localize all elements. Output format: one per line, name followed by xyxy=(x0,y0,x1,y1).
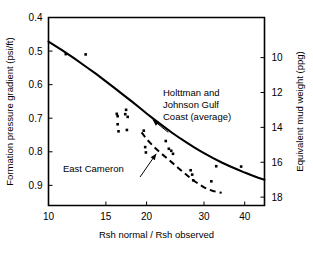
x-tick-label-40: 40 xyxy=(239,211,251,222)
data-point xyxy=(142,129,145,132)
data-point xyxy=(65,53,68,56)
data-point xyxy=(115,113,118,116)
x-tick-label-15: 15 xyxy=(100,211,112,222)
data-point xyxy=(145,151,148,154)
holttman-annotation-line: Johnson Gulf xyxy=(163,99,219,110)
data-point xyxy=(168,147,171,150)
data-point xyxy=(170,149,173,152)
x-tick-label-10: 10 xyxy=(43,211,55,222)
x-tick-label-20: 20 xyxy=(141,211,153,222)
y-tick-label-0.6: 0.6 xyxy=(29,79,43,90)
data-point xyxy=(164,140,167,143)
data-point xyxy=(84,53,87,56)
data-point xyxy=(116,115,119,118)
y2-tick-label-18: 18 xyxy=(272,192,284,203)
y2-tick-label-12: 12 xyxy=(272,87,284,98)
data-point xyxy=(192,179,195,182)
y-tick-label-0.9: 0.9 xyxy=(29,180,43,191)
data-point xyxy=(126,116,129,119)
data-point xyxy=(172,153,175,156)
curve-holttman-johnson xyxy=(49,42,265,180)
holttman-annotation-line: Holttman and xyxy=(163,87,220,98)
y2-axis-title: Equivalent mud weight (ppg) xyxy=(294,51,305,171)
data-point xyxy=(210,180,213,183)
east-cameron-annotation-arrowhead xyxy=(151,154,157,160)
curve-east-cameron xyxy=(142,132,222,192)
y2-tick-label-10: 10 xyxy=(272,52,284,63)
east-cameron-annotation-line: East Cameron xyxy=(63,163,124,174)
annotation-layer: Holttman andJohnson GulfCoast (average)E… xyxy=(63,87,231,177)
x-axis-ticks: 1015203040 xyxy=(43,202,251,222)
chart-figure: 1015203040 0.40.50.60.70.80.9 1012141618… xyxy=(0,0,313,254)
x-tick-label-30: 30 xyxy=(198,211,210,222)
data-point xyxy=(144,146,147,149)
holttman-annotation-line: Coast (average) xyxy=(163,111,231,122)
y-tick-label-0.4: 0.4 xyxy=(29,12,43,23)
y2-tick-label-14: 14 xyxy=(272,122,284,133)
data-point xyxy=(116,123,119,126)
axes-frame xyxy=(49,18,265,206)
data-point xyxy=(189,169,192,172)
chart-canvas: 1015203040 0.40.50.60.70.80.9 1012141618… xyxy=(0,0,313,254)
east-cameron-annotation: East Cameron xyxy=(63,154,156,177)
data-point xyxy=(117,130,120,133)
data-point xyxy=(126,129,129,132)
y-axis-title: Formation pressure gradient (psi/ft) xyxy=(4,37,15,185)
y-tick-label-0.8: 0.8 xyxy=(29,146,43,157)
data-point xyxy=(124,113,127,116)
data-point xyxy=(215,165,218,168)
holttman-annotation: Holttman andJohnson GulfCoast (average) xyxy=(153,87,231,132)
y2-tick-label-16: 16 xyxy=(272,157,284,168)
y-tick-label-0.7: 0.7 xyxy=(29,113,43,124)
data-point xyxy=(125,109,128,112)
x-axis-title: Rsh normal / Rsh observed xyxy=(99,229,214,240)
data-point xyxy=(191,173,194,176)
plot-frame xyxy=(49,18,265,206)
y-tick-label-0.5: 0.5 xyxy=(29,46,43,57)
data-point xyxy=(240,165,243,168)
